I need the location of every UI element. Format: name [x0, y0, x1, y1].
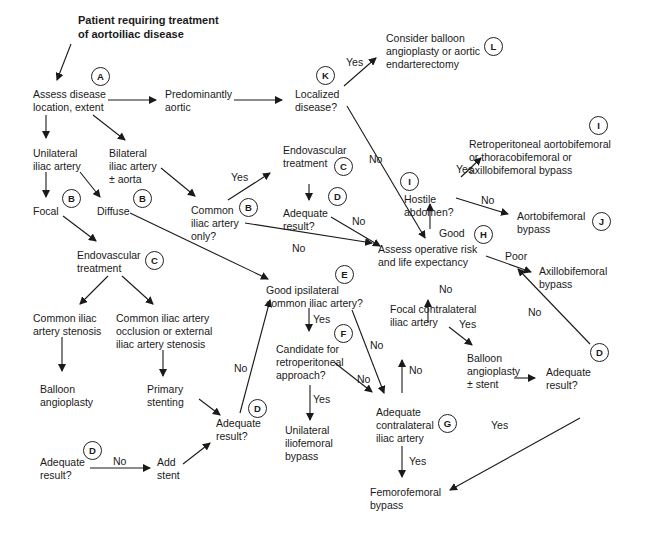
badge-g: G: [438, 414, 457, 433]
node-focal: Focal: [33, 205, 59, 218]
node-localized-disease: Localized disease?: [295, 88, 339, 114]
node-adequate-right: Adequate result?: [546, 366, 591, 392]
edge-label-no: No: [113, 455, 126, 467]
node-adequate-bottom-left: Adequate result?: [40, 456, 85, 482]
node-predominantly-aortic: Predominantly aortic: [165, 88, 232, 114]
node-adequate-contralateral: Adequate contralateral iliac artery: [376, 406, 434, 445]
node-add-stent: Add stent: [157, 456, 180, 482]
node-femorofemoral-bypass: Femorofemoral bypass: [370, 486, 441, 512]
badge-d-bottom-left: D: [83, 441, 102, 460]
node-unilateral-iliofemoral: Unilateral iliofemoral bypass: [285, 424, 333, 463]
node-candidate-retroperitoneal: Candidate for retroperitoneal approach?: [276, 343, 344, 382]
start-node-title: Patient requiring treatment of aortoilia…: [78, 14, 219, 41]
node-common-iliac-only: Common iliac artery only?: [191, 204, 239, 243]
badge-b-diffuse: B: [133, 189, 152, 208]
edge-label-yes: Yes: [346, 56, 363, 68]
badge-d-top: D: [328, 187, 347, 206]
edge-label-no: No: [234, 362, 247, 374]
node-aortobifemoral-bypass: Aortobifemoral bypass: [517, 210, 585, 236]
node-unilateral-iliac: Unilateral iliac artery: [33, 147, 81, 173]
edge-label-no: No: [292, 242, 305, 254]
edge-label-yes: Yes: [313, 393, 330, 405]
node-bilateral-iliac: Bilateral iliac artery ± aorta: [109, 147, 157, 186]
edge-label-no: No: [439, 283, 452, 295]
edge-label-no: No: [370, 339, 383, 351]
node-cia-occlusion: Common iliac artery occlusion or externa…: [116, 312, 212, 351]
edge-label-no: No: [409, 364, 422, 376]
node-good-ipsilateral: Good ipsilateral common iliac artery?: [266, 284, 363, 310]
node-assess-operative-risk: Assess operative risk and life expectanc…: [378, 243, 477, 269]
edge-label-yes: Yes: [313, 313, 330, 325]
node-assess-disease: Assess disease location, extent: [33, 88, 106, 114]
badge-i-hostile: I: [400, 172, 419, 191]
edge-label-poor: Poor: [505, 250, 527, 262]
badge-k: K: [316, 66, 335, 85]
badge-i-retro: I: [589, 116, 608, 135]
edge-label-no: No: [357, 373, 370, 385]
badge-e: E: [335, 265, 354, 284]
node-adequate-top: Adequate result?: [283, 207, 328, 233]
node-cia-stenosis: Common iliac artery stenosis: [33, 312, 101, 338]
node-hostile-abdomen: Hostile abdomen?: [404, 193, 454, 219]
edge-label-no: No: [369, 153, 382, 165]
edge-label-no: No: [528, 306, 541, 318]
badge-f: F: [334, 324, 353, 343]
node-retroperitoneal-bypass: Retroperitoneal aortobifemoral or thorac…: [469, 138, 611, 177]
badge-c-top: C: [334, 157, 353, 176]
edge-label-yes: Yes: [456, 163, 473, 175]
edge-label-good: Good: [439, 227, 465, 239]
badge-d-right: D: [590, 343, 609, 362]
badge-d-mid: D: [248, 399, 267, 418]
edge-label-yes: Yes: [409, 455, 426, 467]
node-primary-stenting: Primary stenting: [147, 383, 184, 409]
badge-c-mid: C: [145, 251, 164, 270]
node-consider-balloon-aortic: Consider balloon angioplasty or aortic e…: [386, 32, 480, 71]
edge-label-yes: Yes: [491, 419, 508, 431]
node-balloon-angioplasty: Balloon angioplasty: [40, 383, 93, 409]
badge-b-focal: B: [62, 189, 81, 208]
edge-label-yes: Yes: [231, 171, 248, 183]
badge-j: J: [592, 212, 611, 231]
node-endovascular-mid: Endovascular treatment: [77, 249, 141, 275]
badge-a: A: [91, 67, 110, 86]
edge-label-no: No: [481, 194, 494, 206]
node-balloon-stent: Balloon angioplasty ± stent: [467, 352, 520, 391]
node-diffuse: Diffuse: [97, 205, 130, 218]
node-adequate-mid: Adequate result?: [216, 417, 261, 443]
badge-l: L: [484, 37, 503, 56]
badge-b-common: B: [239, 198, 258, 217]
edge-label-no: No: [352, 215, 365, 227]
badge-h: H: [474, 225, 493, 244]
edge-label-yes: Yes: [459, 318, 476, 330]
node-axillobifemoral-bypass: Axillobifemoral bypass: [539, 265, 607, 291]
